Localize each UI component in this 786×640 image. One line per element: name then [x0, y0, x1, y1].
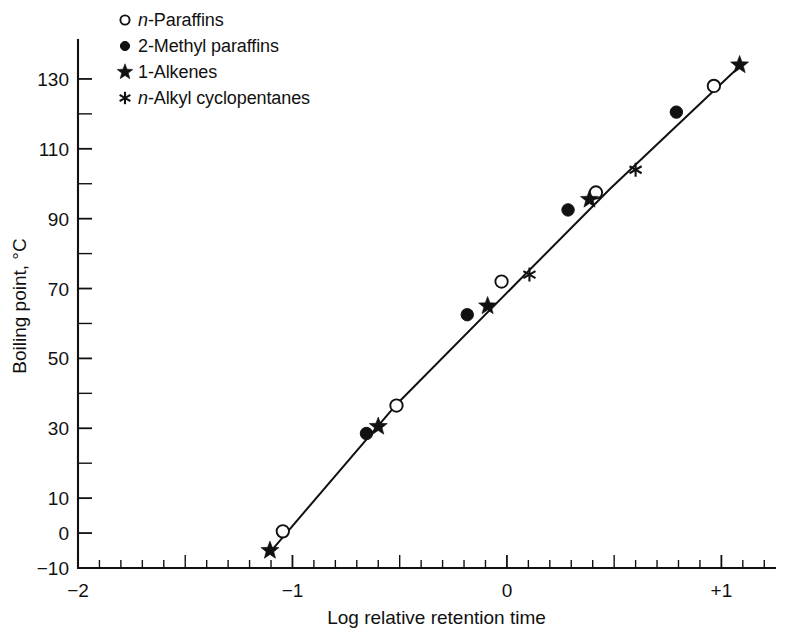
- marker-filled-circle: [670, 106, 682, 118]
- x-tick-label: −2: [67, 580, 89, 601]
- y-tick-label: 110: [39, 139, 69, 160]
- legend-open-circle-icon: [120, 15, 129, 24]
- y-tick-label: 10: [48, 488, 69, 509]
- legend-item: 1-Alkenes: [112, 60, 442, 84]
- legend-marker-open-circle-icon: [112, 8, 138, 32]
- legend-item: n-Alkyl cyclopentanes: [112, 86, 442, 110]
- marker-filled-circle: [562, 204, 574, 216]
- marker-open-circle: [495, 275, 507, 287]
- legend-item-label: 1-Alkenes: [138, 62, 217, 83]
- legend-marker-asterisk-icon: [112, 86, 138, 110]
- y-tick-label: 70: [48, 279, 69, 300]
- legend-item-label: n-Alkyl cyclopentanes: [138, 88, 310, 109]
- legend-marker-filled-circle-icon: [112, 34, 138, 58]
- data-points: [261, 55, 749, 558]
- marker-open-circle: [277, 525, 289, 537]
- legend-item: n-Paraffins: [112, 8, 442, 32]
- marker-open-circle: [390, 399, 402, 411]
- axis-tick-labels: −2−10+1−1001030507090110130: [37, 69, 732, 601]
- fit-line: [270, 63, 743, 552]
- legend-marker-star-icon: [112, 60, 138, 84]
- x-axis-title: Log relative retention time: [327, 607, 546, 628]
- y-tick-label: 50: [48, 348, 69, 369]
- marker-open-circle: [708, 80, 720, 92]
- axis-ticks: [78, 79, 764, 568]
- legend-item: 2-Methyl paraffins: [112, 34, 442, 58]
- y-tick-label: 30: [48, 418, 69, 439]
- marker-star: [731, 55, 749, 72]
- y-axis-title: Boiling point, °C: [9, 238, 30, 373]
- axes: [78, 40, 775, 568]
- boiling-point-retention-time-chart: −2−10+1−1001030507090110130 Log relative…: [0, 0, 786, 640]
- x-tick-label: +1: [711, 580, 733, 601]
- legend-filled-circle-icon: [120, 41, 129, 50]
- y-tick-label: 90: [48, 209, 69, 230]
- chart-legend: n-Paraffins2-Methyl paraffins1-Alkenesn-…: [112, 8, 442, 112]
- axis-lines: [78, 40, 775, 568]
- legend-item-label: n-Paraffins: [138, 10, 224, 31]
- x-tick-label: 0: [502, 580, 513, 601]
- y-tick-label: −10: [37, 558, 69, 579]
- y-tick-label: 0: [58, 523, 69, 544]
- marker-filled-circle: [360, 427, 372, 439]
- x-tick-label: −1: [282, 580, 304, 601]
- fit-line-path: [270, 63, 743, 552]
- legend-item-label: 2-Methyl paraffins: [138, 36, 279, 57]
- y-tick-label: 130: [37, 69, 69, 90]
- axis-titles: Log relative retention timeBoiling point…: [9, 238, 546, 628]
- marker-filled-circle: [461, 309, 473, 321]
- legend-star-icon: [117, 64, 133, 79]
